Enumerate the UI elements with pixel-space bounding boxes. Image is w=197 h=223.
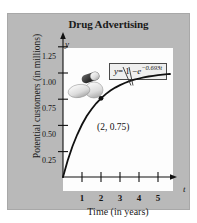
x-axis-variable: t xyxy=(183,184,186,194)
y-tick-label: 0.50 xyxy=(30,130,56,139)
equation-callout: y= 1 −e−0.693t xyxy=(109,63,167,80)
x-tick-label: 3 xyxy=(115,193,125,203)
x-tick-label: 1 xyxy=(77,193,87,203)
y-tick-label: 0.25 xyxy=(30,156,56,165)
y-tick-label: 1.25 xyxy=(30,52,56,61)
x-tick-label: 4 xyxy=(134,193,144,203)
equation-operator: = 1 − xyxy=(118,66,137,76)
y-tick-label: 0.75 xyxy=(30,104,56,113)
y-axis-variable: y xyxy=(65,39,69,49)
data-point-label: (2, 0.75) xyxy=(97,122,129,132)
chart-panel: Drug Advertising Potential customers (in… xyxy=(8,14,189,209)
y-tick-label: 1.00 xyxy=(30,78,56,87)
pills-illustration xyxy=(67,71,109,101)
x-tick-label: 5 xyxy=(153,193,163,203)
x-axis-title: Time (in years) xyxy=(48,206,188,217)
x-tick-label: 2 xyxy=(96,193,106,203)
y-axis-title: Potential customers (in millions) xyxy=(32,16,42,176)
page-title: Drug Advertising xyxy=(36,18,181,30)
equation-exponent: −0.693t xyxy=(141,64,162,71)
figure-container: Drug Advertising Potential customers (in… xyxy=(0,0,197,223)
